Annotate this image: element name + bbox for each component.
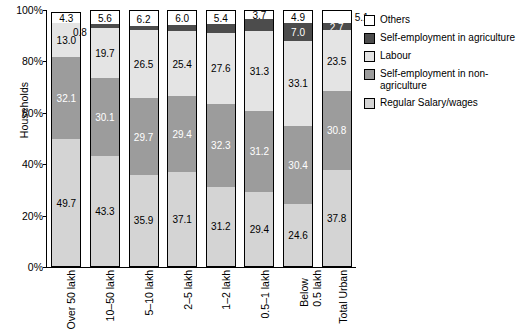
bar-segment: 37.1	[167, 172, 197, 267]
bar-segment-value: 23.5	[327, 55, 346, 66]
bar-column: 5.12.723.530.837.8	[322, 10, 352, 267]
legend-label: Others	[380, 14, 410, 26]
bar-segment-value: 7.0	[291, 26, 305, 37]
chart-container: Households 4.313.032.149.75.61.319.730.1…	[0, 0, 521, 330]
bar-segment: 31.2	[206, 187, 236, 267]
x-axis-tick-label: 0.5–1 lakh	[259, 270, 272, 318]
y-axis-tick-mark	[43, 10, 47, 11]
bar-column: 5.61.319.730.143.30.8	[90, 10, 120, 267]
bar-segment: 43.3	[90, 156, 120, 267]
bar-segment: 35.9	[129, 175, 159, 267]
bar-segment: 49.7	[51, 139, 81, 267]
bar-segment-value: 29.7	[134, 131, 153, 142]
legend-label: Labour	[380, 50, 411, 62]
bar-segment-value: 26.5	[134, 59, 153, 70]
bar-column: 3.74.531.331.229.4	[244, 10, 274, 267]
bar-segment-value: 32.1	[57, 93, 76, 104]
bar-segment-value: 5.6	[98, 12, 112, 23]
bar-segment-value: 37.8	[327, 212, 346, 223]
bar-segment-value: 49.7	[57, 197, 76, 208]
bar-column: 6.21.626.529.735.9	[129, 10, 159, 267]
legend-item: Self-employment in non-agriculture	[364, 68, 516, 91]
bar-column: 4.313.032.149.7	[51, 10, 81, 267]
bar-segment: 24.6	[283, 204, 313, 267]
x-axis-tick: 2–5 lakh	[167, 270, 197, 328]
bar-segment: 25.4	[167, 31, 197, 96]
y-axis-tick-mark	[43, 267, 47, 268]
x-axis-tick-label: 5–10 lakh	[143, 270, 156, 316]
bar-segment-value: 27.6	[211, 63, 230, 74]
x-axis-tick: Over 50 lakh	[50, 270, 80, 328]
bar-segment-value: 31.2	[211, 221, 230, 232]
bar-segment: 4.5	[244, 19, 274, 31]
legend-swatch	[364, 69, 375, 80]
bar-segment: 26.5	[129, 30, 159, 98]
legend-item: Others	[364, 14, 516, 26]
bar-segment: 27.6	[206, 33, 236, 104]
bar-segment-value: 35.9	[134, 215, 153, 226]
bar-segment: 30.4	[283, 126, 313, 204]
bar-segment-value: 6.0	[175, 13, 189, 24]
bar-segment-value: 30.4	[288, 159, 307, 170]
x-axis-tick: 10–50 lakh	[89, 270, 119, 328]
bar-segment-value: 31.2	[250, 146, 269, 157]
bar-segment: 29.7	[129, 98, 159, 174]
bar-segment-value: 5.4	[214, 12, 228, 23]
y-axis-tick-mark	[43, 61, 47, 62]
y-axis-tick-mark	[43, 113, 47, 114]
x-axis-tick: Total Urban	[322, 270, 352, 328]
x-axis-tick: 0.5–1 lakh	[244, 270, 274, 328]
x-axis-tick-label: 10–50 lakh	[104, 270, 117, 321]
bar-column: 5.43.427.632.331.2	[206, 10, 236, 267]
y-axis-tick: 100%	[7, 4, 47, 16]
legend-label: Self-employment in agriculture	[380, 32, 515, 44]
y-axis-tick: 80%	[7, 55, 47, 67]
x-axis-tick-label: Over 50 lakh	[65, 270, 78, 330]
y-axis-tick-mark	[43, 164, 47, 165]
y-axis-tick: 0%	[7, 261, 47, 273]
x-axis-tick-label: Total Urban	[337, 270, 350, 324]
bar-segment: 3.4	[206, 24, 236, 33]
bar-segment: 30.1	[90, 78, 120, 155]
x-axis-tick: 1–2 lakh	[205, 270, 235, 328]
bar-segment-value: 43.3	[95, 205, 114, 216]
y-axis-tick: 40%	[7, 158, 47, 170]
bar-segment: 29.4	[167, 96, 197, 171]
bar-segment-value: 30.8	[327, 125, 346, 136]
legend-item: Regular Salary/wages	[364, 97, 516, 109]
legend-item: Labour	[364, 50, 516, 62]
bar-segment-value: 6.2	[137, 13, 151, 24]
legend-item: Self-employment in agriculture	[364, 32, 516, 44]
legend: OthersSelf-employment in agricultureLabo…	[364, 14, 516, 115]
x-axis-tick: 5–10 lakh	[128, 270, 158, 328]
bar-segment-value: 4.9	[291, 11, 305, 22]
bar-segment-value: 37.1	[172, 213, 191, 224]
bar-segment: 23.5	[322, 30, 352, 90]
legend-swatch	[364, 98, 375, 109]
x-axis-tick-label: 2–5 lakh	[182, 270, 195, 310]
plot-area: 4.313.032.149.75.61.319.730.143.30.86.21…	[46, 10, 356, 268]
bar-segment-value: 29.4	[250, 223, 269, 234]
bar-segment-value: 33.1	[288, 78, 307, 89]
bar-segment: 6.0	[167, 10, 197, 25]
bar-segment: 29.4	[244, 192, 274, 267]
legend-swatch	[364, 33, 375, 44]
y-axis-tick: 20%	[7, 210, 47, 222]
stacked-bars: 4.313.032.149.75.61.319.730.143.30.86.21…	[47, 10, 356, 267]
x-axis-labels: Over 50 lakh10–50 lakh5–10 lakh2–5 lakh1…	[46, 270, 356, 328]
legend-label: Self-employment in non-agriculture	[380, 68, 516, 91]
bar-segment-value: 4.3	[59, 13, 73, 24]
bar-segment-value: 31.3	[250, 66, 269, 77]
bar-segment: 4.9	[283, 10, 313, 23]
bar-segment-value: 24.6	[288, 229, 307, 240]
legend-swatch	[364, 15, 375, 26]
bar-segment: 5.6	[90, 10, 120, 24]
bar-column: 6.02.225.429.437.1	[167, 10, 197, 267]
bar-segment: 2.7	[322, 23, 352, 30]
bar-segment: 33.1	[283, 41, 313, 126]
bar-segment: 32.1	[51, 57, 81, 139]
bar-segment: 37.8	[322, 170, 352, 267]
x-axis-tick-label: 1–2 lakh	[220, 270, 233, 310]
bar-segment: 3.7	[244, 10, 274, 20]
bar-extra-value: 0.8	[73, 27, 87, 38]
